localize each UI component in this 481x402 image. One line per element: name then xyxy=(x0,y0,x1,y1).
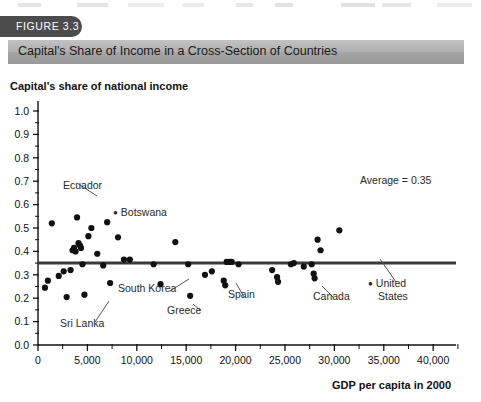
data-point xyxy=(107,280,113,286)
scan-fleck xyxy=(275,3,293,7)
scan-fleck xyxy=(382,3,412,7)
point-label-greece: Greece xyxy=(167,304,201,316)
y-tick-label: 0.4 xyxy=(14,245,29,257)
scan-fleck xyxy=(18,3,41,7)
y-axis-title: Capital's share of national income xyxy=(10,80,188,92)
x-tick-label: 5,000 xyxy=(74,354,100,366)
x-tick-label: 35,000 xyxy=(368,354,400,366)
data-point xyxy=(79,261,85,267)
point-label-botswana: Botswana xyxy=(113,206,167,218)
data-point xyxy=(42,285,48,291)
scan-fleck xyxy=(77,3,108,7)
data-point xyxy=(312,275,318,281)
data-point xyxy=(269,267,275,273)
scan-fleck xyxy=(236,3,253,7)
scan-fleck xyxy=(437,3,473,7)
scan-fleck xyxy=(341,3,375,7)
point-label-spain: Spain xyxy=(228,288,255,300)
data-point xyxy=(187,293,193,299)
data-point xyxy=(317,247,323,253)
data-point xyxy=(104,219,110,225)
point-label-average-0-35: Average = 0.35 xyxy=(360,174,431,186)
data-point xyxy=(291,260,297,266)
point-label-south-korea: South Korea xyxy=(118,282,176,294)
x-tick-label: 15,000 xyxy=(170,354,202,366)
data-point xyxy=(115,234,121,240)
data-point xyxy=(229,259,235,265)
point-label-united: United xyxy=(368,277,406,289)
data-point xyxy=(121,256,127,262)
point-label-canada: Canada xyxy=(313,290,350,302)
data-point xyxy=(301,264,307,270)
data-point xyxy=(74,214,80,220)
data-point xyxy=(88,225,94,231)
plot-area: 0.00.10.20.30.40.50.60.70.80.91.005,0001… xyxy=(0,66,481,402)
figure-title: Capital's Share of Income in a Cross-Sec… xyxy=(18,44,337,58)
data-point xyxy=(68,267,74,273)
y-tick-label: 0.3 xyxy=(14,269,29,281)
data-point xyxy=(100,262,106,268)
data-point xyxy=(45,278,51,284)
data-point xyxy=(172,239,178,245)
scatter-chart: Capital's share of national income GDP p… xyxy=(0,66,481,402)
data-point xyxy=(78,245,84,251)
y-tick-label: 0.5 xyxy=(14,222,29,234)
x-axis-title: GDP per capita in 2000 xyxy=(332,379,451,391)
data-point xyxy=(209,268,215,274)
y-tick-label: 0.1 xyxy=(14,315,29,327)
point-label-states: States xyxy=(378,290,408,302)
page-scan-noise xyxy=(0,0,481,12)
x-tick-label: 40,000 xyxy=(417,354,449,366)
y-tick-label: 0.6 xyxy=(14,198,29,210)
data-point xyxy=(64,294,70,300)
data-point xyxy=(81,292,87,298)
x-tick-label: 20,000 xyxy=(220,354,252,366)
data-point xyxy=(56,273,62,279)
y-tick-label: 0.2 xyxy=(14,292,29,304)
data-point xyxy=(185,261,191,267)
figure-title-bar: Capital's Share of Income in a Cross-Sec… xyxy=(8,40,464,64)
scan-fleck xyxy=(183,3,204,7)
data-point xyxy=(61,268,67,274)
data-point xyxy=(314,237,320,243)
data-point xyxy=(127,256,133,262)
data-point xyxy=(85,233,91,239)
y-tick-label: 1.0 xyxy=(14,105,29,117)
x-tick-label: 25,000 xyxy=(269,354,301,366)
data-point xyxy=(202,272,208,278)
data-point xyxy=(94,251,100,257)
point-label-ecuador: Ecuador xyxy=(63,179,102,191)
data-point xyxy=(309,261,315,267)
data-point xyxy=(72,248,78,254)
data-point xyxy=(336,227,342,233)
x-tick-label: 0 xyxy=(35,354,41,366)
figure-number-label: FIGURE 3.3 xyxy=(16,20,79,32)
figure-header: FIGURE 3.3 xyxy=(0,16,481,38)
data-point xyxy=(150,261,156,267)
data-point xyxy=(49,220,55,226)
y-tick-label: 0.9 xyxy=(14,128,29,140)
y-tick-label: 0.8 xyxy=(14,152,29,164)
scan-fleck xyxy=(128,3,164,7)
x-tick-label: 30,000 xyxy=(318,354,350,366)
y-tick-label: 0.7 xyxy=(14,175,29,187)
data-point xyxy=(235,261,241,267)
point-label-sri-lanka: Sri Lanka xyxy=(60,317,104,329)
x-tick-label: 10,000 xyxy=(121,354,153,366)
data-point xyxy=(275,279,281,285)
y-tick-label: 0.0 xyxy=(14,339,29,351)
